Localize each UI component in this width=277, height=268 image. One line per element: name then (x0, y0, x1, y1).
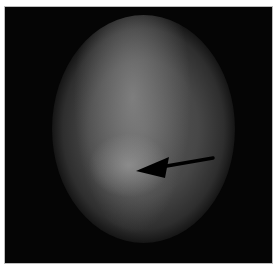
pointer-arrow-icon (5, 7, 273, 264)
image-frame (4, 6, 273, 264)
